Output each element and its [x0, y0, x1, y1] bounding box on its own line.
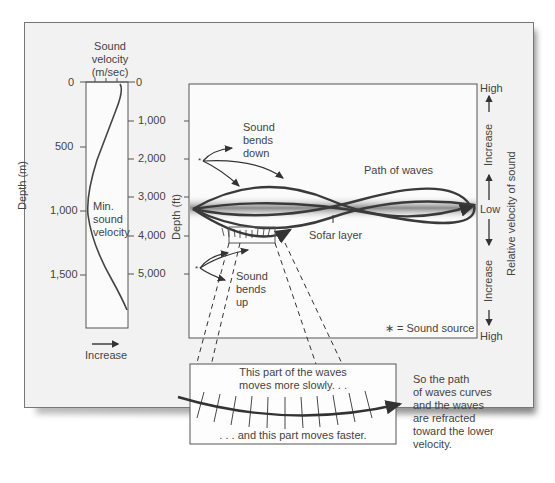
relative-velocity-title: Relative velocity of sound — [505, 151, 518, 276]
line: velocity. — [413, 438, 494, 451]
bends-down-label: Sound bends down — [243, 121, 275, 160]
inset-top-text: This part of the waves moves more slowly… — [190, 366, 396, 392]
tick-m-1500: 1,500 — [50, 268, 78, 281]
line: moves more slowly. . . — [190, 379, 396, 392]
line: up — [236, 296, 268, 309]
tick-m-0: 0 — [68, 76, 74, 89]
line: Sound — [236, 270, 268, 283]
line: This part of the waves — [190, 366, 396, 379]
min-line: velocity — [93, 226, 130, 239]
line: down — [243, 147, 275, 160]
tick-ft-1000: 1,000 — [138, 114, 166, 127]
line: Sound — [243, 121, 275, 134]
tick-ft-2000: 2,000 — [138, 152, 166, 165]
bends-up-label: Sound bends up — [236, 270, 268, 309]
tick-m-500: 500 — [55, 140, 73, 153]
velocity-axis-title: Sound velocity (m/sec) — [80, 40, 140, 79]
inset-bottom-text: . . . and this part moves faster. — [190, 429, 396, 442]
title-line: (m/sec) — [80, 66, 140, 79]
depth-ft-label: Depth (ft) — [170, 194, 183, 240]
svg-text:*: * — [195, 264, 198, 273]
sofar-layer-label: Sofar layer — [309, 229, 362, 242]
tick-ft-5000: 5,000 — [138, 267, 166, 280]
tick-ft-0: 0 — [136, 76, 142, 89]
low-label: Low — [480, 203, 500, 216]
title-line: velocity — [80, 53, 140, 66]
high-top-label: High — [480, 82, 503, 95]
title-line: Sound — [80, 40, 140, 53]
line: toward the lower — [413, 425, 494, 438]
line: bends — [243, 134, 275, 147]
min-line: Min. — [93, 200, 130, 213]
svg-text:*: * — [198, 156, 201, 165]
line: bends — [236, 283, 268, 296]
legend-sound-source: ∗ = Sound source — [385, 322, 474, 335]
min-line: sound — [93, 213, 130, 226]
line: of waves curves — [413, 386, 494, 399]
path-of-waves-label: Path of waves — [364, 164, 433, 177]
increase-x-label: Increase — [85, 349, 127, 362]
increase-top-label: Increase — [482, 124, 495, 166]
line: are refracted — [413, 412, 494, 425]
tick-ft-4000: 4,000 — [138, 229, 166, 242]
tick-m-1000: 1,000 — [50, 204, 78, 217]
line: and the waves — [413, 399, 494, 412]
high-bottom-label: High — [480, 330, 503, 343]
depth-m-label: Depth (m) — [16, 161, 29, 210]
min-velocity-label: Min. sound velocity — [93, 200, 130, 239]
inset-caption: So the path of waves curves and the wave… — [413, 373, 494, 451]
increase-bottom-label: Increase — [482, 260, 495, 302]
line: So the path — [413, 373, 494, 386]
tick-ft-3000: 3,000 — [138, 190, 166, 203]
